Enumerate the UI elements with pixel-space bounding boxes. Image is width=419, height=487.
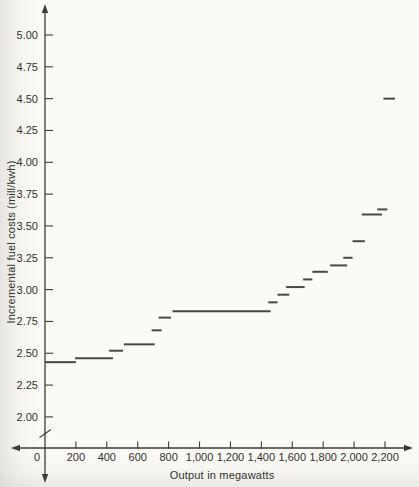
x-tick-label: 400 <box>98 451 116 463</box>
y-tick-label: 2.50 <box>17 347 38 359</box>
y-axis-arrow-up-icon <box>42 4 48 13</box>
x-tick-label: 2,200 <box>371 451 399 463</box>
y-tick-label: 3.00 <box>17 284 38 296</box>
x-axis-arrow-left-icon <box>11 445 20 451</box>
y-tick-label: 4.75 <box>17 61 38 73</box>
x-tick-label: 2,000 <box>340 451 368 463</box>
y-axis-arrow-down-icon <box>42 474 48 483</box>
y-axis-title: Incremental fuel costs (mill/kwh) <box>5 160 17 323</box>
x-tick-label: 1,600 <box>278 451 306 463</box>
y-tick-label: 4.50 <box>17 93 38 105</box>
y-tick-label: 4.00 <box>17 156 38 168</box>
x-tick-label: 800 <box>159 451 177 463</box>
x-tick-label: 1,000 <box>186 451 214 463</box>
step-chart-canvas: 2.002.252.502.753.003.253.503.754.004.25… <box>0 0 419 487</box>
y-tick-label: 2.75 <box>17 315 38 327</box>
y-tick-label: 3.25 <box>17 252 38 264</box>
y-tick-label: 2.00 <box>17 411 38 423</box>
x-tick-label: 1,200 <box>217 451 245 463</box>
y-tick-label: 4.25 <box>17 124 38 136</box>
x-tick-label: 1,800 <box>309 451 337 463</box>
x-tick-label: 0 <box>34 451 40 463</box>
x-tick-label: 200 <box>67 451 85 463</box>
y-tick-label: 2.25 <box>17 379 38 391</box>
x-tick-label: 1,400 <box>248 451 276 463</box>
x-axis-title: Output in megawatts <box>170 469 275 481</box>
y-tick-label: 3.50 <box>17 220 38 232</box>
y-tick-label: 3.75 <box>17 188 38 200</box>
y-tick-label: 5.00 <box>17 29 38 41</box>
x-tick-label: 600 <box>129 451 147 463</box>
x-axis-arrow-right-icon <box>404 445 413 451</box>
fuel-cost-step-chart-figure: 2.002.252.502.753.003.253.503.754.004.25… <box>0 0 419 487</box>
